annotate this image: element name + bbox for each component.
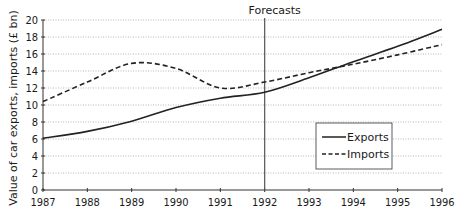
y-tick-label: 10 xyxy=(25,99,38,112)
legend-exports-label: Exports xyxy=(347,131,389,144)
x-tick-label: 1987 xyxy=(30,196,55,209)
y-tick-label: 16 xyxy=(25,48,38,61)
x-tick-label: 1995 xyxy=(385,196,410,209)
y-tick-label: 12 xyxy=(25,82,38,95)
line-chart: 0246810121416182019871988198919901991199… xyxy=(0,0,459,218)
y-tick-label: 4 xyxy=(32,150,38,163)
y-axis-label: Value of car exports, imports (£ bn) xyxy=(7,10,20,206)
legend: Exports Imports xyxy=(316,123,392,169)
x-tick-label: 1989 xyxy=(119,196,144,209)
y-tick-label: 6 xyxy=(32,133,38,146)
y-tick-label: 14 xyxy=(25,65,38,78)
exports-line xyxy=(43,29,442,138)
y-tick-label: 18 xyxy=(25,31,38,44)
x-tick-label: 1993 xyxy=(296,196,321,209)
x-tick-label: 1991 xyxy=(208,196,233,209)
y-tick-label: 2 xyxy=(32,167,38,180)
x-tick-label: 1988 xyxy=(75,196,100,209)
imports-line xyxy=(43,45,442,102)
x-tick-label: 1996 xyxy=(429,196,454,209)
y-tick-label: 20 xyxy=(25,14,38,27)
x-tick-label: 1994 xyxy=(341,196,366,209)
legend-imports-label: Imports xyxy=(347,148,390,161)
forecasts-annotation: Forecasts xyxy=(249,4,302,17)
legend-box xyxy=(316,123,392,169)
series-lines xyxy=(43,29,442,138)
tick-labels: 0246810121416182019871988198919901991199… xyxy=(25,14,454,209)
x-tick-label: 1992 xyxy=(252,196,277,209)
x-tick-label: 1990 xyxy=(163,196,188,209)
y-tick-label: 8 xyxy=(32,116,38,129)
